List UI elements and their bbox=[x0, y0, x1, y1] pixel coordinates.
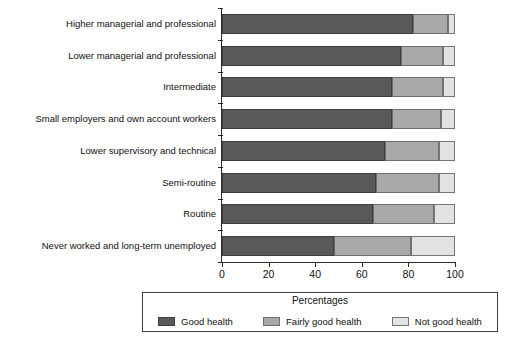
bar-segment-fairlygood bbox=[392, 109, 441, 129]
y-axis-tick bbox=[218, 40, 223, 41]
bar-segment-fairlygood bbox=[376, 173, 439, 193]
category-label: Never worked and long-term unemployed bbox=[42, 240, 216, 252]
bar-segment-good bbox=[222, 141, 385, 161]
bar-segment-good bbox=[222, 14, 413, 34]
bar-segment-notgood bbox=[443, 46, 455, 66]
bar-segment-good bbox=[222, 236, 334, 256]
bar-segment-fairlygood bbox=[392, 77, 443, 97]
bar-segment-good bbox=[222, 77, 392, 97]
x-axis-tick bbox=[455, 262, 456, 267]
bar-segment-fairlygood bbox=[373, 204, 434, 224]
legend-item: Fairly good health bbox=[263, 316, 362, 327]
category-label: Lower supervisory and technical bbox=[80, 145, 216, 157]
bar-segment-good bbox=[222, 46, 401, 66]
bar-segment-notgood bbox=[411, 236, 455, 256]
x-axis-tick bbox=[222, 262, 223, 267]
legend-item: Not good health bbox=[392, 316, 482, 327]
bar-segment-fairlygood bbox=[334, 236, 411, 256]
x-axis-tick-label: 80 bbox=[388, 268, 428, 280]
x-axis-tick bbox=[315, 262, 316, 267]
bar-segment-fairlygood bbox=[385, 141, 439, 161]
bar-segment-notgood bbox=[443, 77, 455, 97]
bar-segment-notgood bbox=[441, 109, 455, 129]
plot-area bbox=[222, 8, 455, 262]
legend-label: Good health bbox=[181, 316, 233, 327]
bar-segment-good bbox=[222, 109, 392, 129]
bar-segment-good bbox=[222, 173, 376, 193]
legend-label: Not good health bbox=[415, 316, 482, 327]
category-label: Semi-routine bbox=[162, 177, 216, 189]
legend-title: Percentages bbox=[143, 295, 497, 306]
category-label: Higher managerial and professional bbox=[66, 18, 216, 30]
bar-segment-notgood bbox=[439, 173, 455, 193]
category-label: Routine bbox=[183, 208, 216, 220]
stacked-bar-chart: Higher managerial and professionalLower … bbox=[0, 0, 512, 341]
x-axis-tick-label: 100 bbox=[435, 268, 475, 280]
x-axis-tick-label: 40 bbox=[295, 268, 335, 280]
bar-segment-good bbox=[222, 204, 373, 224]
category-label: Intermediate bbox=[163, 81, 216, 93]
x-axis-line bbox=[222, 262, 456, 263]
y-axis-tick bbox=[218, 72, 223, 73]
bar-segment-fairlygood bbox=[413, 14, 448, 34]
x-axis-tick-label: 0 bbox=[202, 268, 242, 280]
legend-item: Good health bbox=[158, 316, 233, 327]
y-axis-tick bbox=[218, 8, 223, 9]
x-axis-tick bbox=[362, 262, 363, 267]
legend-swatch-notgood bbox=[392, 317, 409, 326]
category-label: Small employers and own account workers bbox=[35, 113, 216, 125]
y-axis-tick bbox=[218, 103, 223, 104]
category-label: Lower managerial and professional bbox=[68, 50, 216, 62]
y-axis-tick bbox=[218, 230, 223, 231]
y-axis-tick bbox=[218, 167, 223, 168]
bar-segment-fairlygood bbox=[401, 46, 443, 66]
bar-segment-notgood bbox=[439, 141, 455, 161]
legend-swatch-fairlygood bbox=[263, 317, 280, 326]
legend-swatch-good bbox=[158, 317, 175, 326]
x-axis-tick bbox=[269, 262, 270, 267]
y-axis-tick bbox=[218, 199, 223, 200]
bar-segment-notgood bbox=[434, 204, 455, 224]
legend-label: Fairly good health bbox=[286, 316, 362, 327]
x-axis-tick bbox=[408, 262, 409, 267]
bar-segment-notgood bbox=[448, 14, 455, 34]
legend: Percentages Good healthFairly good healt… bbox=[142, 292, 498, 332]
x-axis-tick-label: 20 bbox=[249, 268, 289, 280]
x-axis-tick-label: 60 bbox=[342, 268, 382, 280]
y-axis-tick bbox=[218, 135, 223, 136]
legend-items: Good healthFairly good healthNot good he… bbox=[143, 312, 497, 330]
